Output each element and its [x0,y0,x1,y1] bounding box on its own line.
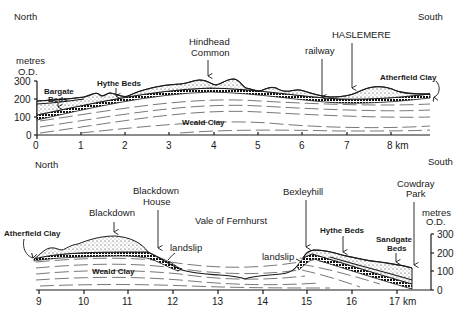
hythe-beds-top [37,79,430,115]
blackdown-house-label-2: House [143,196,170,207]
hythe-beds-label: Hythe Beds [97,79,142,88]
sandgate-beds-label-2: Beds [387,244,407,253]
x-tick-16: 16 [346,296,358,307]
y-tick-300-bottom: 300 [437,229,454,240]
x-tick-2: 2 [122,140,128,151]
x-tick-0: 0 [33,140,39,151]
landslip-left-label: landslip [170,242,202,253]
y-tick-200-bottom: 200 [437,248,454,259]
x-tick-13: 13 [212,296,224,307]
hindhead-common-label-2: Common [191,47,230,58]
north-label: North [14,11,37,22]
x-tick-5: 5 [255,140,261,151]
x-tick-1: 1 [78,140,84,151]
blackdown-house-label: Blackdown [133,185,179,196]
x-tick-6: 6 [299,140,305,151]
x-tick-8: 8 km [387,140,409,151]
y-tick-300: 300 [14,76,31,87]
bargate-beds-label-2: Beds [48,95,68,104]
sandgate-beds-label: Sandgate [376,235,413,244]
x-tick-3: 3 [166,140,172,151]
y-axis-title-bottom-unit: O.D. [426,216,446,227]
hythe-beds-label-bottom: Hythe Beds [320,226,365,235]
bexleyhill-label: Bexleyhill [283,186,323,197]
haslemere-label: HASLEMERE [332,29,391,40]
bottom-section: North South metres O.D. 300 200 100 0 9 … [4,156,454,307]
atherfield-clay-label-bottom: Atherfield Clay [4,229,61,238]
top-section: North South metres O.D. 300 200 100 0 0 … [14,11,443,151]
blackdown-label: Blackdown [89,207,135,218]
south-label-bottom: South [428,156,453,167]
x-tick-15: 15 [301,296,313,307]
south-label: South [418,11,443,22]
landslip-right-label: landslip [262,251,294,262]
x-tick-4: 4 [211,140,217,151]
y-tick-100-bottom: 100 [437,266,454,277]
x-tick-10: 10 [78,296,90,307]
geological-cross-section: North South metres O.D. 300 200 100 0 0 … [0,0,470,325]
x-tick-11: 11 [122,296,133,307]
x-tick-9: 9 [36,296,42,307]
atherfield-clay-label: Atherfield Clay [380,73,437,82]
y-tick-0: 0 [26,130,32,141]
y-tick-0-bottom: 0 [437,285,443,296]
x-tick-7: 7 [344,140,350,151]
north-label-bottom: North [35,159,58,170]
railway-label: railway [305,45,335,56]
atherfield-arrow-bottom [23,239,33,258]
y-axis-title: metres [16,55,45,66]
x-tick-14: 14 [257,296,269,307]
cowdray-park-label-2: Park [406,188,426,199]
x-tick-12: 12 [167,296,179,307]
vale-of-fernhurst-label: Vale of Fernhurst [195,215,268,226]
x-tick-17: 17 km [389,296,416,307]
landslip-left-arrow [168,253,175,260]
y-tick-100: 100 [14,112,31,123]
atherfield-arrow [434,81,439,97]
weald-clay-label-bottom: Weald Clay [92,267,135,276]
hindhead-common-label: Hindhead [189,36,230,47]
y-tick-200: 200 [14,94,31,105]
weald-clay-label: Weald Clay [182,118,225,127]
